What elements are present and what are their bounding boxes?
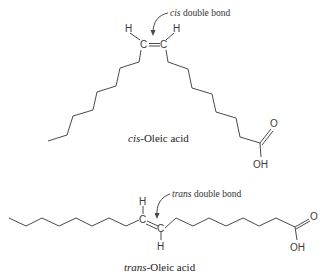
cis-carbonyl-o: O — [270, 118, 278, 129]
cis-annotation: cis double bond — [170, 8, 230, 18]
trans-arrow-icon — [157, 194, 170, 216]
cis-caption: cis-Oleic acid — [128, 132, 189, 144]
trans-carbonyl-o: O — [310, 211, 318, 222]
cis-h1-bond — [130, 33, 140, 40]
cis-hydroxyl-oh: OH — [253, 159, 268, 170]
trans-caption: trans-Oleic acid — [124, 261, 196, 273]
cis-arrowhead-icon — [151, 30, 156, 36]
trans-left-chain — [9, 218, 139, 226]
cis-h-left: H — [125, 23, 132, 34]
cis-right-chain — [166, 50, 260, 143]
cis-c-left: C — [140, 39, 147, 50]
oleic-acid-diagram: H C H C O OH cis double bond cis-Oleic a… — [0, 0, 329, 276]
structure-drawing: H C H C O OH cis double bond cis-Oleic a… — [0, 0, 329, 276]
trans-c-top: C — [139, 214, 146, 225]
cis-c-right: C — [160, 39, 167, 50]
trans-annotation: trans double bond — [172, 189, 241, 199]
cis-left-chain — [48, 50, 141, 141]
trans-arrowhead-icon — [155, 213, 160, 219]
trans-h-top: H — [139, 196, 146, 207]
trans-right-chain — [165, 218, 295, 228]
cis-oleic-acid-structure: H C H C O OH cis double bond cis-Oleic a… — [48, 8, 278, 170]
cis-hydroxyl-bond — [260, 143, 261, 157]
trans-oleic-acid-structure: H C C H O OH trans double bond trans-Ole… — [9, 189, 318, 273]
cis-h-right: H — [173, 23, 180, 34]
trans-c-bottom: C — [157, 223, 164, 234]
trans-h-bottom: H — [157, 241, 164, 252]
trans-hydroxyl-oh: OH — [290, 242, 305, 253]
